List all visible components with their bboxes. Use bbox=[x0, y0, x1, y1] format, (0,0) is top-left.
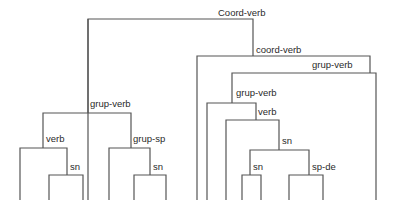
edge-right-grup-verb-inner bbox=[207, 103, 256, 200]
node-left-grup-sp-label: grup-sp bbox=[133, 134, 165, 144]
node-left-grup-verb-label: grup-verb bbox=[90, 99, 131, 109]
edge-root bbox=[88, 19, 253, 200]
edge-left-verb-sn bbox=[49, 175, 83, 200]
edge-right-coord-verb bbox=[197, 56, 370, 200]
edge-left-grup-sp-sn bbox=[134, 175, 166, 200]
node-right-coord-verb-label: coord-verb bbox=[256, 45, 301, 55]
edge-right-sn-inner bbox=[242, 175, 261, 200]
node-left-verb-sn-label: sn bbox=[70, 162, 80, 172]
syntax-tree bbox=[0, 0, 393, 209]
node-right-sp-de-label: sp-de bbox=[312, 162, 336, 172]
node-right-verb-label: verb bbox=[258, 107, 276, 117]
node-right-sn-outer-label: sn bbox=[282, 136, 292, 146]
node-right-sn-inner-label: sn bbox=[253, 162, 263, 172]
edge-right-sp-de bbox=[289, 175, 323, 200]
node-left-grup-sp-sn-label: sn bbox=[153, 162, 163, 172]
edge-left-verb bbox=[20, 148, 67, 200]
edge-right-verb bbox=[226, 120, 279, 200]
node-left-verb-label: verb bbox=[46, 134, 64, 144]
node-right-grup-verb-inner-label: grup-verb bbox=[236, 88, 277, 98]
node-right-grup-verb-outer-label: grup-verb bbox=[312, 60, 353, 70]
edge-left-grup-sp bbox=[109, 148, 150, 200]
node-root-label: Coord-verb bbox=[218, 8, 266, 18]
